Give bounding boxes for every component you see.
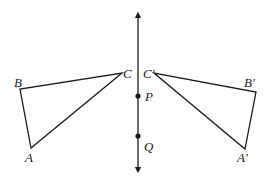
label-c: C bbox=[123, 66, 132, 81]
triangle-abc bbox=[20, 73, 122, 148]
point-p bbox=[135, 93, 140, 98]
label-p: P bbox=[144, 89, 153, 104]
label-c-prime: C′ bbox=[143, 66, 155, 81]
triangle-abc-prime bbox=[154, 73, 256, 149]
point-q bbox=[135, 133, 140, 138]
label-a-prime: A′ bbox=[236, 150, 248, 165]
label-q: Q bbox=[144, 139, 154, 154]
reflection-diagram: B A C C′ B′ A′ P Q bbox=[0, 0, 268, 185]
label-a: A bbox=[24, 150, 33, 165]
label-b: B bbox=[14, 75, 22, 90]
label-b-prime: B′ bbox=[244, 75, 255, 90]
